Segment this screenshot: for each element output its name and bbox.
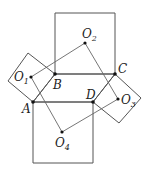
points bbox=[29, 41, 119, 133]
label-o1: O1 bbox=[14, 70, 29, 86]
point-c bbox=[113, 72, 117, 76]
point-o4 bbox=[60, 130, 63, 133]
squares bbox=[8, 13, 141, 163]
point-o1 bbox=[29, 75, 32, 78]
label-o3: O3 bbox=[121, 93, 136, 109]
point-o3 bbox=[116, 97, 119, 100]
label-o4: O4 bbox=[55, 136, 70, 152]
label-d: D bbox=[85, 88, 96, 102]
point-o2 bbox=[83, 41, 86, 44]
point-b bbox=[53, 72, 57, 76]
point-a bbox=[31, 100, 35, 104]
label-o2: O2 bbox=[82, 27, 97, 43]
label-b: B bbox=[52, 78, 62, 92]
label-c: C bbox=[118, 62, 127, 76]
parallelogram-abcd bbox=[33, 74, 115, 102]
label-a: A bbox=[21, 102, 31, 116]
geometry-diagram: A B C D O1 O2 O3 O4 bbox=[0, 0, 149, 173]
labels: A B C D O1 O2 O3 O4 bbox=[14, 27, 136, 152]
